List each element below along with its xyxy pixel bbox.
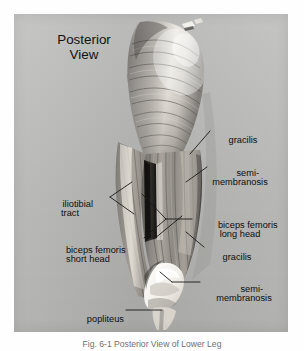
- label-bfl-line2: long head: [220, 229, 261, 239]
- label-semimembranosis-lower-line2: membranosis: [216, 293, 272, 303]
- label-semimembranosis-upper-line2: membranosis: [212, 177, 268, 187]
- label-popliteus-text: popliteus: [87, 314, 124, 324]
- anatomy-photo-panel: PosteriorView gracilis semi-membranosis …: [14, 14, 288, 332]
- label-iliotibial-tract-line1: iliotibial: [63, 199, 94, 209]
- figure-caption: Fig. 6-1 Posterior View of Lower Leg: [0, 339, 304, 351]
- dissection-gap-core: [145, 162, 151, 240]
- view-title-line1: Posterior: [57, 32, 111, 47]
- label-bfs-line2: short head: [66, 254, 110, 264]
- label-gracilis-upper-text: gracilis: [229, 135, 258, 145]
- label-gracilis-upper: gracilis: [213, 126, 257, 155]
- label-biceps-femoris-short-head: biceps femorisshort head: [40, 236, 136, 274]
- label-semimembranosis-lower: semi-membranosis: [200, 275, 288, 313]
- label-semimembranosis-upper: semi-membranosis: [196, 159, 284, 197]
- view-title-line2: View: [70, 47, 99, 62]
- label-gracilis-lower-text: gracilis: [223, 252, 252, 262]
- figure-page: PosteriorView gracilis semi-membranosis …: [0, 0, 304, 351]
- view-title: PosteriorView: [40, 32, 128, 63]
- label-iliotibial-tract-line2: tract: [61, 208, 79, 218]
- label-popliteus: popliteus: [52, 305, 124, 332]
- cut-edge-highlight: [156, 162, 163, 240]
- popliteal-tendons: [144, 260, 184, 330]
- specimen-marker: [182, 18, 203, 31]
- label-gracilis-lower: gracilis: [207, 243, 251, 272]
- label-iliotibial-tract: iliotibialtract: [32, 190, 108, 228]
